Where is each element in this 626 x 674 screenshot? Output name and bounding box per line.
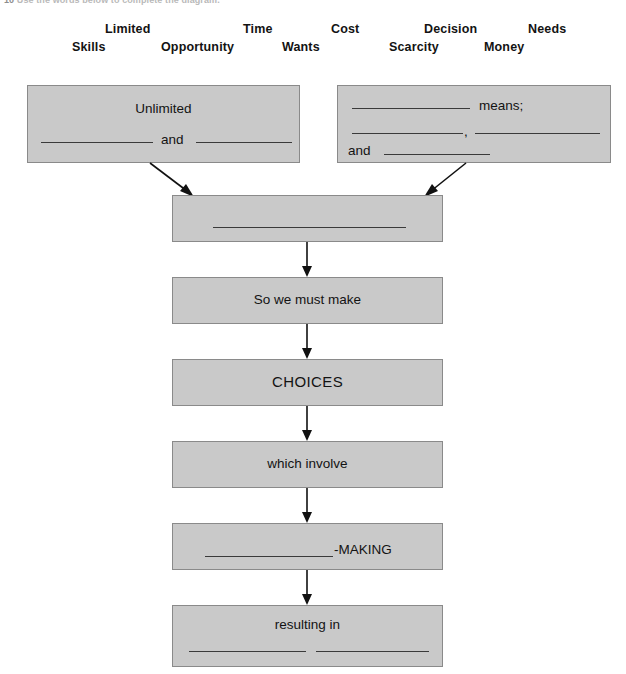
word-bank-item[interactable]: Wants	[282, 40, 320, 54]
box-so-we-must-make-label: So we must make	[173, 292, 442, 307]
instruction-line: 10 Use the words below to complete the d…	[0, 0, 626, 11]
arrow-down-4	[297, 488, 317, 524]
box-resulting-in[interactable]: resulting in	[172, 605, 443, 667]
box-means[interactable]: means; , and	[337, 85, 611, 163]
blank-line[interactable]	[189, 651, 306, 652]
blank-line[interactable]	[352, 133, 463, 134]
word-bank-item[interactable]: Limited	[105, 22, 151, 36]
box-which-involve[interactable]: which involve	[172, 441, 443, 488]
blank-line[interactable]	[475, 133, 600, 134]
arrow-down-2	[297, 324, 317, 360]
word-bank-item[interactable]: Cost	[331, 22, 359, 36]
box-means-comma: ,	[464, 124, 468, 139]
box-unlimited[interactable]: Unlimited and	[27, 85, 300, 163]
box-so-we-must-make[interactable]: So we must make	[172, 277, 443, 324]
box-making-label: -MAKING	[334, 542, 392, 557]
instruction-number: 10	[4, 0, 14, 5]
box-means-label: means;	[479, 98, 523, 113]
instruction-body: Use the words below to complete the diag…	[17, 0, 220, 5]
box-making[interactable]: -MAKING	[172, 523, 443, 570]
word-bank-item[interactable]: Time	[243, 22, 273, 36]
box-choices-label: CHOICES	[173, 373, 442, 390]
box-which-involve-label: which involve	[173, 456, 442, 471]
box-resulting-in-label: resulting in	[173, 617, 442, 632]
box-unlimited-heading: Unlimited	[28, 101, 299, 116]
box-unlimited-and: and	[161, 132, 184, 147]
word-bank: LimitedTimeCostDecisionNeedsSkillsOpport…	[0, 22, 626, 62]
arrow-down-5	[297, 570, 317, 606]
word-bank-item[interactable]: Scarcity	[389, 40, 439, 54]
word-bank-item[interactable]: Needs	[528, 22, 566, 36]
word-bank-item[interactable]: Opportunity	[161, 40, 234, 54]
blank-line[interactable]	[205, 556, 333, 557]
word-bank-item[interactable]: Money	[484, 40, 524, 54]
blank-line[interactable]	[384, 154, 490, 155]
word-bank-item[interactable]: Skills	[72, 40, 106, 54]
word-bank-item[interactable]: Decision	[424, 22, 477, 36]
box-combined[interactable]	[172, 195, 443, 242]
blank-line[interactable]	[316, 651, 429, 652]
blank-line[interactable]	[196, 142, 292, 143]
blank-line[interactable]	[213, 227, 406, 228]
box-choices[interactable]: CHOICES	[172, 359, 443, 406]
box-means-and: and	[348, 143, 371, 158]
blank-line[interactable]	[41, 142, 153, 143]
arrow-down-3	[297, 406, 317, 442]
instruction-text: 10 Use the words below to complete the d…	[4, 0, 220, 5]
arrow-down-1	[297, 242, 317, 278]
blank-line[interactable]	[352, 108, 470, 109]
